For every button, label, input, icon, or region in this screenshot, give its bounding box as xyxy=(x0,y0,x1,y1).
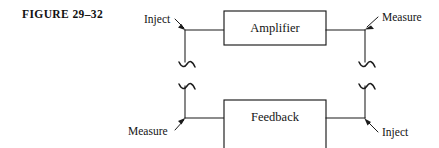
probe-measure-bottom-left: Measure xyxy=(128,118,185,137)
probe-inject-top-left: Inject xyxy=(144,13,185,30)
probe-label-measure-top: Measure xyxy=(382,11,422,23)
probe-arrow-head xyxy=(178,24,185,30)
feedback-label: Feedback xyxy=(251,110,300,124)
amplifier-output-wire xyxy=(326,30,365,62)
figure-29-32: FIGURE 29–32 Amplifier Inject xyxy=(0,0,439,148)
wire-break-icon xyxy=(179,84,195,89)
amplifier-block: Amplifier xyxy=(224,11,326,45)
amplifier-label: Amplifier xyxy=(250,21,300,35)
probe-label-inject-top: Inject xyxy=(144,13,171,26)
probe-label-inject-bottom: Inject xyxy=(382,126,409,139)
wire-break-icon xyxy=(179,62,195,67)
probe-arrow-head xyxy=(365,26,375,30)
feedback-output-wire xyxy=(185,86,224,118)
probe-label-measure-bottom: Measure xyxy=(128,125,168,137)
probe-measure-top-right: Measure xyxy=(365,11,422,30)
feedback-block: Feedback xyxy=(224,100,326,148)
wire-break-icon xyxy=(359,62,375,67)
feedback-box xyxy=(224,100,326,148)
circuit-diagram: Amplifier Inject Measure xyxy=(0,0,439,148)
probe-inject-bottom-right: Inject xyxy=(365,119,409,140)
probe-arrow-shaft xyxy=(367,17,378,27)
amplifier-input-wire xyxy=(185,30,224,62)
feedback-input-wire xyxy=(326,86,365,118)
probe-arrow-head xyxy=(178,118,185,125)
wire-break-icon xyxy=(359,84,375,89)
